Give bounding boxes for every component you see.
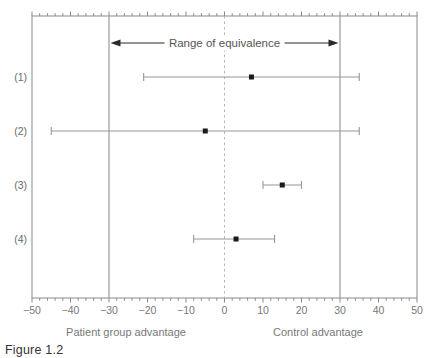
x-tick-label: 30 [334,304,346,316]
point-estimate-marker-3 [280,183,285,188]
row-label-3: (3) [14,179,27,191]
x-tick-label: −20 [139,304,157,316]
point-estimate-marker-4 [234,237,239,242]
range-arrow-head-left [111,39,121,46]
row-label-4: (4) [14,233,27,245]
range-arrow-head-right [329,39,339,46]
row-label-1: (1) [14,71,27,83]
x-tick-label: 40 [373,304,385,316]
x-tick-label: 10 [257,304,269,316]
point-estimate-marker-2 [203,129,208,134]
x-tick-label: 50 [411,304,423,316]
plot-frame [32,16,417,298]
xlabel-control-advantage: Control advantage [273,326,363,338]
x-tick-label: 20 [296,304,308,316]
range-of-equivalence-label: Range of equivalence [169,37,280,49]
x-tick-label: −10 [177,304,195,316]
x-tick-label: −40 [62,304,80,316]
figure-caption: Figure 1.2 [5,343,63,357]
point-estimate-marker-1 [249,75,254,80]
figure-1-2: −50−40−30−20−1001020304050Range of equiv… [0,0,434,358]
x-tick-label: −50 [23,304,41,316]
x-tick-label: 0 [222,304,228,316]
row-label-2: (2) [14,125,27,137]
equivalence-trial-chart: −50−40−30−20−1001020304050Range of equiv… [0,0,434,358]
xlabel-patient-group-advantage: Patient group advantage [66,326,186,338]
x-tick-label: −30 [100,304,118,316]
